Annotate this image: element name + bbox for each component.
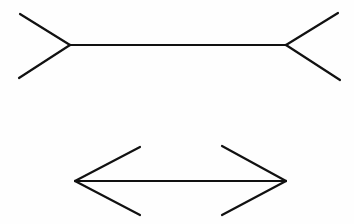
lower-right-fin bbox=[286, 45, 340, 80]
upper-left-arrowhead bbox=[75, 147, 140, 181]
illusion-canvas bbox=[0, 0, 354, 224]
lower-right-arrowhead bbox=[222, 181, 286, 215]
upper-right-fin bbox=[286, 13, 338, 45]
lower-left-fin bbox=[19, 45, 70, 78]
muller-lyer-illusion-figure bbox=[0, 0, 354, 224]
upper-left-fin bbox=[20, 14, 70, 45]
fins-in-figure bbox=[19, 13, 340, 80]
lower-left-arrowhead bbox=[75, 181, 140, 215]
arrows-out-figure bbox=[75, 146, 286, 215]
upper-right-arrowhead bbox=[222, 146, 286, 181]
